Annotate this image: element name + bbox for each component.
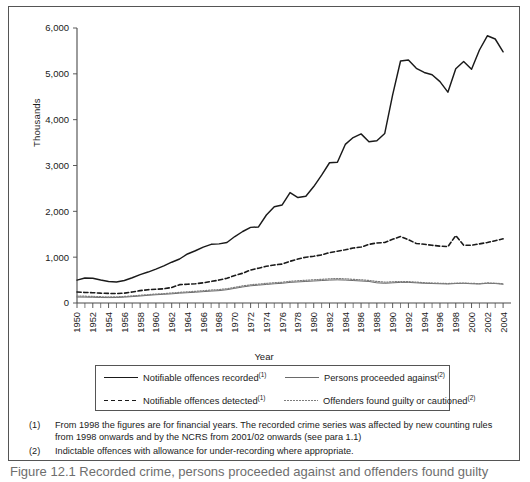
svg-text:1986: 1986	[356, 312, 366, 333]
svg-text:2,000: 2,000	[45, 206, 69, 217]
legend-label: Offenders found guilty or cautioned(2)	[323, 394, 475, 406]
svg-text:1998: 1998	[451, 312, 461, 333]
footnote-row: (1) From 1998 the figures are for financ…	[29, 419, 504, 444]
svg-text:1958: 1958	[136, 312, 146, 333]
legend-label: Notifiable offences recorded(1)	[143, 371, 266, 383]
legend-item-offenders-found-guilty-or-cautioned[interactable]: Offenders found guilty or cautioned(2)	[284, 389, 449, 412]
chart-legend: Notifiable offences recorded(1) Persons …	[95, 365, 450, 411]
x-axis-title: Year	[9, 351, 519, 362]
svg-text:1988: 1988	[372, 312, 382, 333]
svg-text:1952: 1952	[88, 312, 98, 333]
dotted-line-swatch-icon	[284, 396, 318, 406]
legend-row: Notifiable offences detected(1) Offender…	[96, 389, 449, 412]
line-swatch-icon	[104, 373, 138, 383]
svg-text:1,000: 1,000	[45, 252, 69, 263]
legend-item-persons-proceeded-against[interactable]: Persons proceeded against(2)	[285, 366, 449, 389]
legend-item-notifiable-offences-recorded[interactable]: Notifiable offences recorded(1)	[96, 366, 285, 389]
svg-text:1960: 1960	[151, 312, 161, 333]
footnote-text: From 1998 the figures are for financial …	[55, 419, 504, 444]
svg-text:1978: 1978	[293, 312, 303, 333]
svg-text:1966: 1966	[199, 312, 209, 333]
line-swatch-icon	[285, 373, 319, 383]
svg-text:6,000: 6,000	[45, 22, 69, 33]
footnote-text: Indictable offences with allowance for u…	[55, 445, 504, 457]
svg-text:1984: 1984	[341, 312, 351, 333]
svg-text:3,000: 3,000	[45, 160, 69, 171]
series-line	[77, 279, 503, 297]
dashed-line-swatch-icon	[104, 396, 138, 406]
chart-plot-area: 01,0002,0003,0004,0005,0006,000195019521…	[9, 7, 519, 307]
legend-item-notifiable-offences-detected[interactable]: Notifiable offences detected(1)	[96, 389, 284, 412]
svg-text:5,000: 5,000	[45, 68, 69, 79]
svg-text:0: 0	[64, 297, 69, 308]
y-axis-title: Thousands	[31, 98, 42, 147]
legend-label: Notifiable offences detected(1)	[143, 394, 265, 406]
svg-text:1996: 1996	[435, 312, 445, 333]
svg-text:1982: 1982	[325, 312, 335, 333]
svg-text:4,000: 4,000	[45, 114, 69, 125]
svg-text:1992: 1992	[404, 312, 414, 333]
svg-text:1974: 1974	[262, 312, 272, 333]
svg-text:1970: 1970	[230, 312, 240, 333]
figure-footnotes: (1) From 1998 the figures are for financ…	[29, 419, 504, 458]
figure-panel: 01,0002,0003,0004,0005,0006,000195019521…	[8, 6, 520, 461]
legend-row: Notifiable offences recorded(1) Persons …	[96, 366, 449, 389]
svg-text:1950: 1950	[72, 312, 82, 333]
footnote-row: (2) Indictable offences with allowance f…	[29, 445, 504, 457]
footnote-marker: (1)	[29, 419, 55, 444]
figure-caption: Figure 12.1 Recorded crime, persons proc…	[10, 464, 520, 482]
line-chart-svg: 01,0002,0003,0004,0005,0006,000195019521…	[9, 7, 519, 352]
svg-text:2004: 2004	[499, 312, 509, 333]
svg-text:1968: 1968	[214, 312, 224, 333]
svg-text:1990: 1990	[388, 312, 398, 333]
svg-text:2002: 2002	[483, 312, 493, 333]
svg-text:1972: 1972	[246, 312, 256, 333]
svg-text:2000: 2000	[467, 312, 477, 333]
svg-text:1976: 1976	[278, 312, 288, 333]
svg-text:1954: 1954	[104, 312, 114, 333]
legend-label: Persons proceeded against(2)	[324, 371, 445, 383]
svg-text:1980: 1980	[309, 312, 319, 333]
svg-text:1956: 1956	[120, 312, 130, 333]
svg-text:1962: 1962	[167, 312, 177, 333]
svg-text:1994: 1994	[420, 312, 430, 333]
footnote-marker: (2)	[29, 445, 55, 457]
series-line	[77, 36, 503, 282]
series-line	[77, 236, 503, 294]
svg-text:1964: 1964	[183, 312, 193, 333]
